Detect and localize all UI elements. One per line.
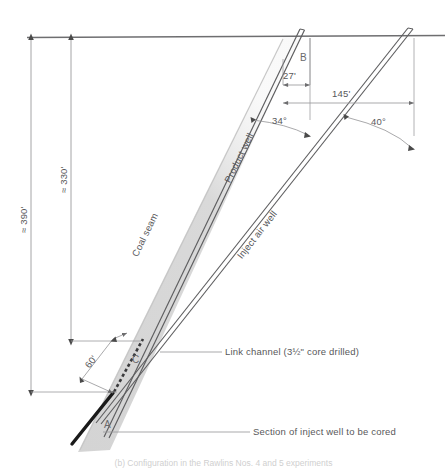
point-label-c: C <box>132 355 139 365</box>
angle-label-inject-well: 40° <box>371 117 386 127</box>
link-channel-callout: Link channel (3½" core drilled) <box>225 347 359 357</box>
dimension-label-total-depth: ≈ 390' <box>19 190 29 250</box>
dimension-label-well-offset: 27' <box>283 71 296 81</box>
dimension-seam-depth <box>68 34 141 346</box>
point-label-a: A <box>104 420 111 430</box>
angle-label-product-well: 34° <box>272 116 287 126</box>
dimension-label-well-spacing: 145' <box>332 89 350 99</box>
point-label-b: B <box>300 53 307 63</box>
coal-seam-band <box>78 37 301 452</box>
dimension-total-depth <box>28 34 117 397</box>
dimension-label-seam-depth: ≈ 330' <box>59 150 69 210</box>
diagram-canvas <box>0 0 447 469</box>
figure-caption: (b) Configuration in the Rawlins Nos. 4 … <box>0 458 447 468</box>
surface-line <box>27 36 445 38</box>
cored-section-callout: Section of inject well to be cored <box>253 427 396 437</box>
well-layout-diagram: ≈ 390' ≈ 330' 60' 27' 145' 34° 40° Coal … <box>0 0 447 469</box>
